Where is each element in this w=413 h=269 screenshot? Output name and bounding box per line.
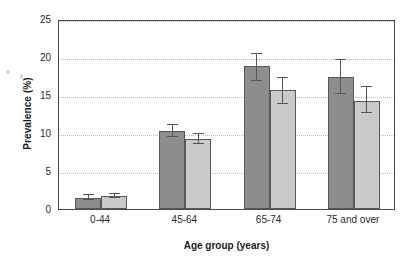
x-tick-label: 0-44	[58, 214, 142, 225]
bar	[75, 198, 101, 209]
bar	[101, 196, 127, 209]
bar	[270, 90, 296, 209]
error-bar-cap-upper	[251, 53, 262, 54]
error-bar-cap-upper	[361, 86, 372, 87]
scan-artifact-speck	[6, 70, 10, 74]
x-tick-label: 75 and over	[311, 214, 395, 225]
error-bar-cap-upper	[83, 194, 94, 195]
error-bar-cap-upper	[193, 133, 204, 134]
gridline	[59, 59, 394, 60]
y-axis-tick-labels: 0510152025	[27, 0, 51, 269]
y-tick-label: 10	[29, 129, 51, 139]
error-bar	[109, 19, 120, 209]
y-tick-label: 20	[29, 53, 51, 63]
bar	[244, 66, 270, 209]
y-tick-label: 25	[29, 15, 51, 25]
x-tick-label: 45-64	[142, 214, 226, 225]
bar	[328, 77, 354, 209]
bar	[159, 131, 185, 209]
bar	[185, 139, 211, 209]
gridline	[59, 21, 394, 22]
error-bar-cap-upper	[167, 124, 178, 125]
x-axis-tick-labels: 0-4445-6465-7475 and over	[58, 214, 395, 230]
bar	[354, 101, 380, 209]
y-tick-label: 15	[29, 91, 51, 101]
error-bar-cap-upper	[109, 193, 120, 194]
x-axis-title: Age group (years)	[58, 240, 395, 251]
error-bar-cap-upper	[277, 77, 288, 78]
x-tick-label: 65-74	[227, 214, 311, 225]
error-bar	[83, 19, 94, 209]
plot-area	[58, 20, 395, 210]
prevalence-by-age-group-bar-chart: Prevalence (%) 0510152025 0-4445-6465-74…	[0, 0, 413, 269]
y-tick-label: 5	[29, 167, 51, 177]
y-tick-label: 0	[29, 205, 51, 215]
